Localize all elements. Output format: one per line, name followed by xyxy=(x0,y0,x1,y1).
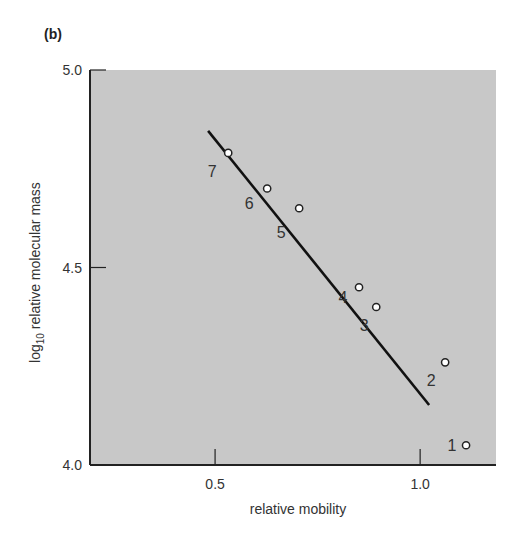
plot-area xyxy=(90,70,496,465)
chart: 4.04.55.00.51.0 1234567 relative mobilit… xyxy=(0,0,517,541)
data-point xyxy=(373,303,380,310)
data-point-label: 7 xyxy=(208,163,217,180)
data-point-label: 6 xyxy=(245,195,254,212)
data-point-label: 2 xyxy=(427,372,436,389)
data-point xyxy=(296,205,303,212)
y-tick-label: 4.0 xyxy=(63,457,83,473)
data-point-label: 5 xyxy=(277,224,286,241)
y-tick-label: 5.0 xyxy=(63,62,83,78)
x-tick-label: 0.5 xyxy=(205,476,225,492)
data-point xyxy=(355,284,362,291)
data-point xyxy=(462,442,469,449)
y-tick-label: 4.5 xyxy=(63,260,83,276)
data-point-label: 3 xyxy=(360,317,369,334)
x-axis-title: relative mobility xyxy=(250,501,346,517)
data-point-label: 4 xyxy=(339,289,348,306)
x-tick-label: 1.0 xyxy=(410,476,430,492)
data-point-label: 1 xyxy=(448,437,457,454)
data-point xyxy=(225,149,232,156)
y-axis-title: log10 relative molecular mass xyxy=(27,182,46,363)
data-point xyxy=(264,185,271,192)
data-point xyxy=(442,359,449,366)
